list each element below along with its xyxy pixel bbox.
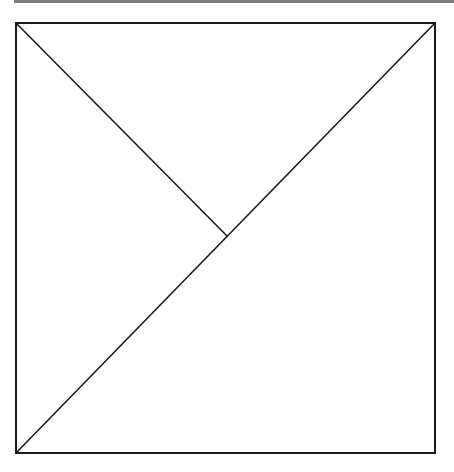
square-diagram <box>0 0 454 472</box>
half-diagonal-line <box>16 23 227 236</box>
